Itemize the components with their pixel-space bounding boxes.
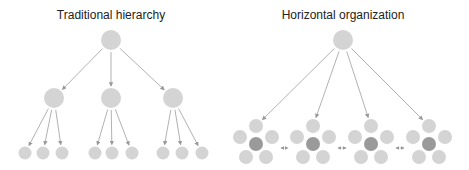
edge-root-to-manager [120, 48, 164, 90]
edge-root-to-manager [62, 49, 102, 90]
team-member-node [380, 130, 394, 144]
team-member-node [233, 130, 247, 144]
edge-leader-to-team [262, 48, 334, 119]
team-member-node [249, 119, 263, 133]
team-member-node [374, 150, 388, 164]
team-member-node [306, 119, 320, 133]
team-member-node [265, 130, 279, 144]
traditional-hierarchy-diagram [19, 30, 209, 160]
employee-node [106, 147, 119, 160]
edge-leader-to-team [351, 48, 422, 119]
team-member-node [354, 150, 368, 164]
leader-node [333, 30, 353, 50]
team-member-node [348, 130, 362, 144]
manager-node [163, 88, 183, 108]
edge-manager-to-employee [97, 110, 107, 145]
team-member-node [296, 150, 310, 164]
team-member-node [239, 150, 253, 164]
team-lead-node [422, 137, 436, 151]
edge-manager-to-employee [165, 110, 171, 145]
employee-node [176, 147, 189, 160]
team-lead-node [249, 137, 263, 151]
employee-node [89, 147, 102, 160]
team-member-node [432, 150, 446, 164]
employee-node [196, 147, 209, 160]
horizontal-organization-diagram [233, 30, 452, 164]
employee-node [56, 147, 69, 160]
leader-node [101, 30, 121, 50]
employee-node [126, 147, 139, 160]
team-member-node [406, 130, 420, 144]
edge-manager-to-employee [56, 110, 61, 145]
manager-node [101, 88, 121, 108]
traditional-hierarchy-title: Traditional hierarchy [57, 8, 165, 22]
edge-manager-to-employee [175, 110, 181, 145]
team-member-node [290, 130, 304, 144]
edge-leader-to-team [316, 51, 339, 117]
edge-manager-to-employee [45, 110, 52, 145]
manager-node [44, 88, 64, 108]
horizontal-organization-title: Horizontal organization [282, 8, 405, 22]
employee-node [157, 147, 170, 160]
team-member-node [259, 150, 273, 164]
employee-node [37, 147, 50, 160]
team-member-node [412, 150, 426, 164]
edge-manager-to-employee [111, 110, 112, 145]
org-diagrams: Traditional hierarchy Horizontal organiz… [0, 0, 469, 170]
team-member-node [438, 130, 452, 144]
edge-manager-to-employee [179, 109, 198, 146]
team-member-node [316, 150, 330, 164]
edge-manager-to-employee [115, 109, 129, 145]
team-member-node [422, 119, 436, 133]
team-member-node [364, 119, 378, 133]
employee-node [19, 147, 32, 160]
team-member-node [322, 130, 336, 144]
team-lead-node [364, 137, 378, 151]
edge-leader-to-team [347, 51, 368, 117]
team-lead-node [306, 137, 320, 151]
